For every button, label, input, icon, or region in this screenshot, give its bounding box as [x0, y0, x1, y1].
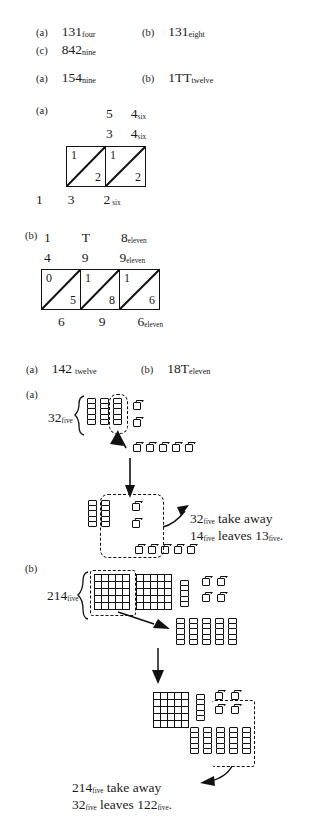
result-arrow-b: [207, 766, 232, 782]
base-five-unit-cube: [146, 444, 154, 452]
lattice-a-cell-0-lower: 2: [95, 170, 101, 185]
answer-2a-value: 154: [62, 70, 82, 85]
blocks-a-caption2-value2: 13: [255, 528, 269, 543]
brace-icon: [78, 572, 88, 619]
answer-3a-value: 142: [52, 361, 72, 376]
lattice-a-cell-0-upper: 1: [71, 148, 77, 163]
lattice-grid-a: 1 2 1 2: [66, 146, 146, 187]
lattice-a-cell-1-upper: 1: [110, 148, 116, 163]
base-five-unit-cube: [202, 578, 210, 586]
blocks-b-caption2-end: .: [169, 797, 172, 812]
base-five-rod: [87, 398, 96, 425]
answer-1b-value: 131: [168, 24, 188, 39]
blocks-b-caption1-base: five: [92, 787, 103, 795]
base-five-rod: [196, 694, 205, 721]
lattice-b-bottom-row: 6 9 6eleven: [58, 312, 163, 330]
lattice-b-cell-0-upper: 0: [46, 271, 52, 286]
base-five-unit-cube: [133, 402, 141, 410]
answer-3b-tag: (b): [141, 364, 153, 375]
blocks-b-tag: (b): [25, 563, 37, 574]
answer-3a: (a) 142twelve: [26, 359, 97, 377]
answer-2a: (a) 154nine: [36, 68, 96, 86]
answer-3b-base: eleven: [189, 367, 210, 376]
blocks-b-caption2-base: five: [86, 804, 97, 812]
answer-3a-tag: (a): [26, 364, 38, 375]
blocks-a-label-base: five: [62, 417, 73, 425]
blocks-a-caption2-text: leaves: [215, 528, 255, 543]
base-five-rod: [100, 398, 109, 425]
answer-1c-value: 842: [62, 42, 82, 57]
lattice-b-top-digit-1: T: [82, 230, 90, 245]
blocks-b-label: 214five: [47, 586, 78, 604]
base-five-flat: [136, 574, 172, 610]
lattice-b-cell-1: 1 8: [81, 270, 120, 309]
result-arrow-a: [163, 511, 185, 527]
answer-2b-tag: (b): [142, 73, 154, 84]
base-five-rod: [215, 618, 224, 645]
base-five-unit-cube: [217, 578, 225, 586]
base-five-unit-cube: [172, 444, 180, 452]
lattice-a-top-digit-0: 5: [106, 106, 113, 121]
answer-2b-value: 1TT: [168, 70, 191, 85]
blocks-b-trade-highlight: [90, 570, 136, 616]
arrowhead-icon: [200, 776, 215, 786]
blocks-a-caption2-end: .: [280, 528, 283, 543]
arrowhead-icon: [152, 670, 164, 684]
blocks-a-caption-line1: 32five take away: [190, 511, 272, 527]
lattice-a-bottom-digit-2: 2: [104, 192, 111, 207]
lattice-b-bottom-digit-1: 9: [99, 314, 106, 329]
answer-1c-base: nine: [82, 48, 96, 57]
lattice-grid-b: 0 5 1 8 1 6: [41, 269, 160, 310]
blocks-a-caption2-base: five: [204, 535, 215, 543]
answer-1a: (a) 131four: [36, 22, 96, 40]
lattice-a-bottom-base: six: [112, 199, 120, 207]
blocks-b-caption2-value2: 122: [137, 797, 157, 812]
base-five-rod: [228, 618, 237, 645]
lattice-b-top-row: 1 T 8eleven: [44, 228, 147, 246]
blocks-b-caption-line2: 32five leaves 122five.: [72, 797, 172, 813]
lattice-b-cell-2: 1 6: [120, 270, 159, 309]
base-five-rod: [203, 727, 212, 754]
blocks-b-caption1-value: 214: [72, 780, 92, 795]
base-five-unit-cube: [159, 444, 167, 452]
lattice-b-second-base: eleven: [126, 257, 145, 265]
lattice-b-cell-1-upper: 1: [85, 271, 91, 286]
base-five-unit-cube: [133, 419, 141, 427]
lattice-b-second-row: 4 9 9eleven: [44, 248, 145, 266]
lattice-b-bottom-base: eleven: [144, 321, 163, 329]
lattice-a-bottom-digit-1: 3: [68, 192, 75, 207]
blocks-b-label-base: five: [67, 595, 78, 603]
blocks-b-caption2-text: leaves: [97, 797, 137, 812]
base-five-rod: [189, 618, 198, 645]
blocks-a-caption2-value: 14: [190, 528, 204, 543]
blocks-b-caption-line1: 214five take away: [72, 780, 161, 796]
answer-1a-base: four: [82, 30, 96, 39]
base-five-unit-cube: [231, 692, 239, 700]
base-five-rod: [176, 618, 185, 645]
answer-1b-base: eight: [189, 30, 205, 39]
lattice-a-second-row: 3 4six: [86, 124, 146, 142]
blocks-a-subtrahend-outline: [100, 494, 164, 558]
base-five-unit-cube: [185, 444, 193, 452]
answer-2a-base: nine: [82, 76, 96, 85]
base-five-flat: [153, 692, 189, 728]
blocks-a-trade-highlight: [109, 394, 128, 434]
base-five-rod: [180, 580, 189, 607]
lattice-b-cell-1-lower: 8: [109, 293, 115, 308]
arrowhead-icon: [153, 619, 170, 629]
lattice-b-top-digit-0: 1: [44, 230, 51, 245]
base-five-unit-cube: [174, 546, 182, 554]
lattice-b-second-digit-1: 9: [82, 250, 89, 265]
blocks-a-label-value: 32: [48, 410, 62, 425]
answer-2a-tag: (a): [36, 73, 48, 84]
base-five-unit-cube: [133, 444, 141, 452]
lattice-a-top-base: six: [138, 113, 146, 121]
lattice-b-top-base: eleven: [128, 237, 147, 245]
lattice-a-second-digit-1: 4: [131, 126, 138, 141]
lattice-a-cell-0: 1 2: [67, 147, 106, 186]
blocks-b-caption2-base2: five: [157, 804, 168, 812]
lattice-a-second-digit-0: 3: [106, 126, 113, 141]
answer-3b: (b) 18Televen: [141, 359, 210, 377]
base-five-unit-cube: [217, 594, 225, 602]
blocks-b-subtrahend-outline: [212, 700, 255, 767]
